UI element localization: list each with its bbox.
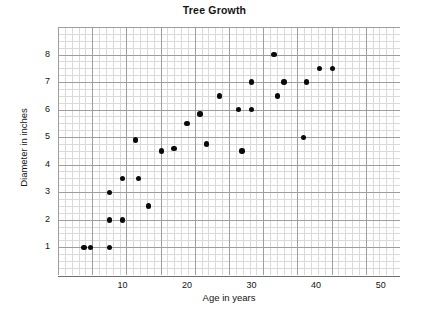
data-point (120, 217, 125, 222)
x-tick-label: 30 (237, 280, 267, 290)
data-point (107, 190, 112, 195)
data-point (281, 79, 286, 84)
data-point (217, 93, 222, 98)
y-tick-label: 2 (30, 214, 50, 224)
data-point (239, 148, 244, 153)
data-point (330, 66, 335, 71)
y-tick-label: 7 (30, 76, 50, 86)
data-point (146, 203, 151, 208)
y-tick-label: 6 (30, 104, 50, 114)
data-point (171, 146, 176, 151)
y-tick-label: 4 (30, 159, 50, 169)
chart-title: Tree Growth (0, 4, 429, 16)
data-point (197, 111, 202, 116)
x-tick-label: 50 (366, 280, 396, 290)
y-axis-title: Diameter in inches (18, 88, 29, 208)
y-tick-label: 5 (30, 131, 50, 141)
x-axis-line (58, 276, 400, 277)
data-point (107, 217, 112, 222)
data-point (301, 135, 306, 140)
y-tick-label: 8 (30, 49, 50, 59)
data-point (120, 176, 125, 181)
data-point (88, 245, 93, 250)
data-point (236, 107, 241, 112)
x-tick-label: 40 (301, 280, 331, 290)
data-point (249, 79, 254, 84)
data-point (249, 107, 254, 112)
data-point (304, 79, 309, 84)
data-point (159, 148, 164, 153)
x-axis-title: Age in years (58, 292, 400, 303)
data-point (136, 176, 141, 181)
y-tick-label: 1 (30, 241, 50, 251)
data-point (317, 66, 322, 71)
data-point (184, 121, 189, 126)
x-tick-label: 20 (172, 280, 202, 290)
data-points-layer (58, 27, 400, 275)
data-point (133, 137, 138, 142)
data-point (107, 245, 112, 250)
x-tick-label: 10 (108, 280, 138, 290)
data-point (81, 245, 86, 250)
data-point (271, 52, 276, 57)
data-point (204, 141, 209, 146)
data-point (275, 93, 280, 98)
scatter-chart-figure: Tree Growth 1020304050 12345678 Age in y… (0, 0, 429, 311)
y-tick-label: 3 (30, 186, 50, 196)
plot-area (58, 27, 400, 275)
